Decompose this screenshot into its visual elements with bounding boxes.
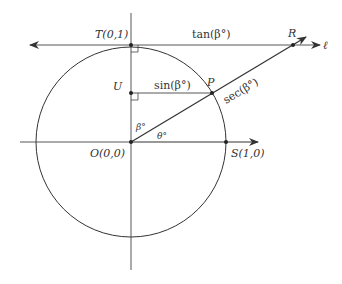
label-o: O(0,0) [90,147,125,160]
label-s: S(1,0) [231,147,265,160]
unit-circle-diagram: T(0,1) U P R O(0,0) S(1,0) tan(β°) sin(β… [0,0,342,284]
label-p: P [206,76,215,89]
label-sec: sec(β°) [221,75,261,106]
label-beta-angle: β° [135,122,146,132]
point-s [224,140,228,144]
point-r [291,43,295,47]
point-u [129,91,133,95]
label-u: U [113,80,123,93]
point-t [129,43,133,47]
label-tan: tan(β°) [192,28,231,41]
label-r: R [287,27,296,40]
label-sin: sin(β°) [154,79,191,92]
label-line-l: ℓ [323,39,328,52]
label-t: T(0,1) [95,28,128,41]
point-o [129,140,133,144]
label-theta-angle: θ° [157,131,167,141]
point-p [210,91,214,95]
